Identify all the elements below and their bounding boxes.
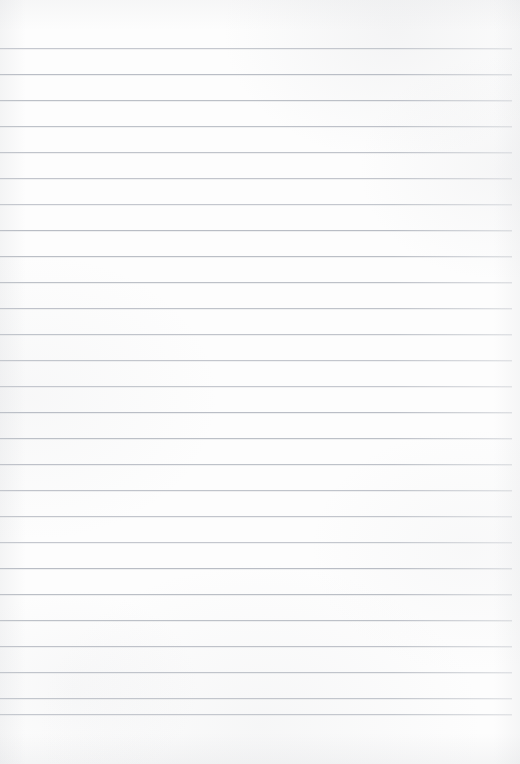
notebook-paper-sheet (0, 0, 520, 764)
paper-background (0, 0, 520, 764)
